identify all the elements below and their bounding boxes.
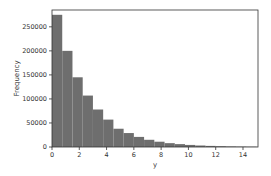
x-tick-label: 2 — [77, 151, 81, 159]
x-tick-label: 8 — [159, 151, 163, 159]
x-tick-label: 12 — [212, 151, 220, 159]
y-tick-label: 100000 — [22, 95, 47, 103]
y-tick-label: 50000 — [26, 119, 47, 127]
histogram-bar — [154, 142, 164, 147]
histogram-bar — [103, 120, 113, 147]
histogram-bar — [52, 15, 62, 147]
histogram-chart: 02468101214 0500001000001500002000002500… — [0, 0, 271, 176]
histogram-bar — [124, 133, 134, 147]
x-tick-label: 6 — [132, 151, 136, 159]
y-axis-label: Frequency — [13, 60, 21, 96]
x-axis-label: y — [153, 161, 157, 169]
histogram-bar — [113, 129, 123, 147]
histogram-bar — [83, 96, 93, 147]
histogram-bar — [134, 137, 144, 147]
histogram-bar — [72, 77, 82, 147]
x-tick-label: 14 — [239, 151, 247, 159]
y-tick-label: 150000 — [22, 71, 47, 79]
histogram-bar — [144, 140, 154, 147]
x-tick-label: 4 — [104, 151, 108, 159]
y-tick-label: 0 — [43, 143, 47, 151]
y-tick-label: 200000 — [22, 47, 47, 55]
x-tick-label: 10 — [184, 151, 192, 159]
x-axis-ticks: 02468101214 — [50, 147, 247, 159]
y-axis-ticks: 050000100000150000200000250000 — [22, 23, 52, 151]
histogram-bars — [52, 15, 257, 147]
x-tick-label: 0 — [50, 151, 54, 159]
histogram-bar — [93, 110, 103, 147]
histogram-bar — [175, 144, 185, 147]
histogram-bar — [165, 143, 175, 147]
histogram-bar — [62, 51, 72, 147]
y-tick-label: 250000 — [22, 23, 47, 31]
